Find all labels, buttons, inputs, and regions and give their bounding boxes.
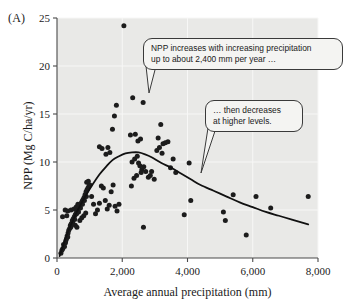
callout-decrease-line2: at higher levels. — [213, 116, 296, 127]
callout-decrease-line1: … then decreases — [213, 105, 296, 116]
y-tick-label: 25 — [39, 13, 50, 24]
x-tick-label: 0 — [54, 266, 60, 277]
x-tick-label: 6,000 — [240, 266, 265, 277]
x-tick-label: 4,000 — [175, 266, 200, 277]
y-tick-label: 20 — [39, 61, 50, 72]
x-tick-label: 2,000 — [110, 266, 135, 277]
callout-decrease: … then decreases at higher levels. — [205, 100, 303, 132]
panel-label: (A) — [8, 11, 25, 26]
y-tick-label: 10 — [39, 157, 50, 168]
x-axis-title: Average annual precipitation (mm) — [57, 285, 318, 300]
callout-increase-line1: NPP increases with increasing precipitat… — [151, 43, 336, 54]
callout-increase: NPP increases with increasing precipitat… — [143, 38, 343, 70]
y-axis-title: NPP (Mg C/ha/yr) — [21, 66, 36, 226]
y-tick-label: 5 — [45, 205, 51, 216]
y-tick-label: 0 — [45, 253, 51, 264]
y-tick-label: 15 — [39, 109, 50, 120]
callout-increase-line2: up to about 2,400 mm per year … — [151, 54, 336, 65]
x-tick-label: 8,000 — [306, 266, 331, 277]
figure-panel-a: (A) NPP (Mg C/ha/yr) Average annual prec… — [0, 0, 349, 308]
